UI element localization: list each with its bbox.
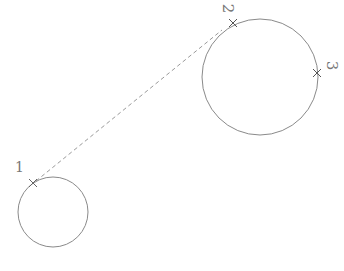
point-1-label: 1 xyxy=(15,160,24,174)
diagram-canvas xyxy=(0,0,344,271)
point-3-label: 3 xyxy=(324,61,339,71)
large-circle xyxy=(202,19,318,135)
point-3-marker-icon xyxy=(313,69,321,77)
point-2-label: 2 xyxy=(220,4,235,14)
dashed-connector xyxy=(36,30,222,181)
small-circle xyxy=(18,177,88,247)
point-1-marker-icon xyxy=(29,179,37,187)
